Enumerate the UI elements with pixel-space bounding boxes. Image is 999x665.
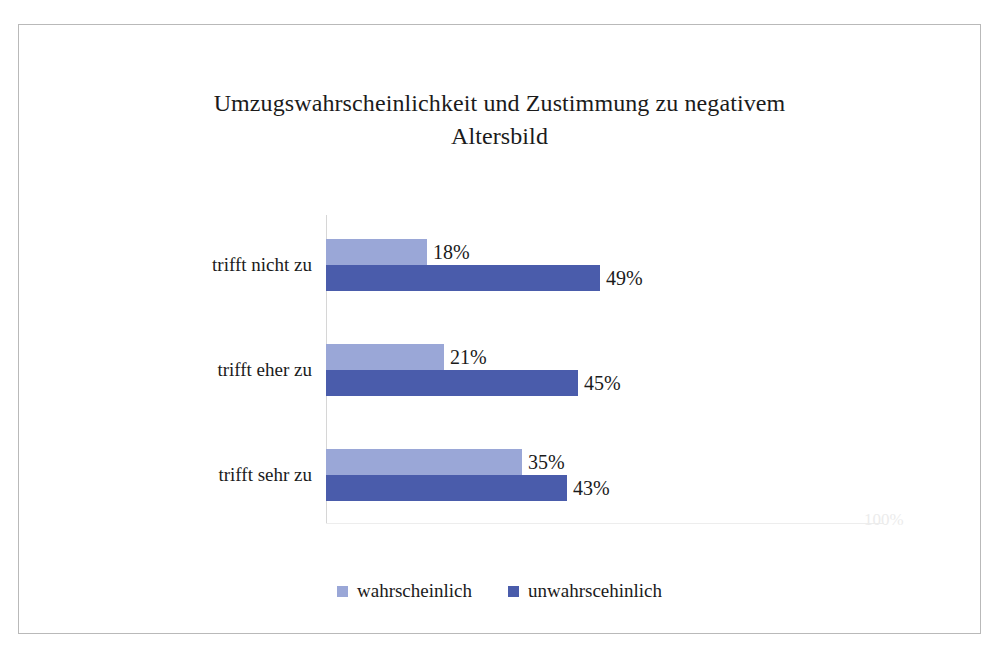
x-axis-line (326, 523, 884, 524)
legend-label: unwahrscehinlich (528, 580, 662, 602)
chart-title: Umzugswahrscheinlichkeit und Zustimmung … (19, 87, 980, 153)
category-label: trifft sehr zu (218, 464, 312, 486)
legend-item-wahrscheinlich: wahrscheinlich (337, 580, 472, 602)
legend-item-unwahrscheinlich: unwahrscehinlich (508, 580, 662, 602)
bar-value-label: 35% (528, 451, 565, 474)
bar-wahrscheinlich (326, 449, 522, 475)
chart-title-line-1: Umzugswahrscheinlichkeit und Zustimmung … (19, 87, 980, 120)
bar-value-label: 18% (433, 241, 470, 264)
category-label: trifft eher zu (217, 359, 312, 381)
bar-unwahrscheinlich (326, 370, 578, 396)
bar-group: trifft sehr zu 35% 43% (326, 449, 884, 501)
legend-label: wahrscheinlich (357, 580, 472, 602)
bar-unwahrscheinlich (326, 265, 600, 291)
chart-title-line-2: Altersbild (19, 120, 980, 153)
chart-legend: wahrscheinlich unwahrscehinlich (19, 580, 980, 602)
bar-wahrscheinlich (326, 344, 444, 370)
x-axis-max-label: 100% (864, 510, 904, 530)
bar-unwahrscheinlich (326, 475, 567, 501)
bar-wahrscheinlich (326, 239, 427, 265)
legend-swatch-icon (337, 586, 348, 597)
legend-swatch-icon (508, 586, 519, 597)
bar-value-label: 49% (606, 267, 643, 290)
category-label: trifft nicht zu (212, 254, 312, 276)
bar-value-label: 21% (450, 346, 487, 369)
bar-value-label: 45% (584, 372, 621, 395)
bar-group: trifft eher zu 21% 45% (326, 344, 884, 396)
bar-value-label: 43% (573, 477, 610, 500)
bar-group: trifft nicht zu 18% 49% (326, 239, 884, 291)
chart-frame: Umzugswahrscheinlichkeit und Zustimmung … (18, 24, 981, 634)
plot-area: trifft nicht zu 18% 49% trifft eher zu 2… (326, 215, 886, 525)
